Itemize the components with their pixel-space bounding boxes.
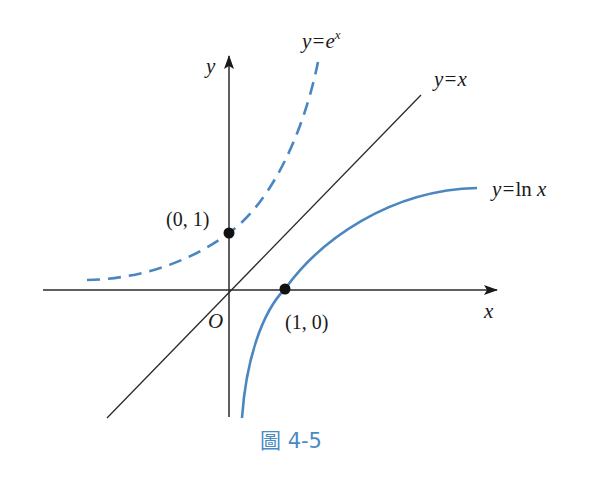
point-0-1-label: (0, 1) — [166, 208, 209, 231]
exp-label: y=ex — [300, 27, 341, 53]
point-0-1 — [224, 228, 235, 239]
exp-label-sup: x — [334, 27, 341, 42]
point-1-0-label: (1, 0) — [285, 311, 328, 334]
y-axis-label: y — [204, 54, 216, 78]
identity-label: y=x — [432, 67, 467, 91]
identity-line — [107, 95, 421, 418]
exp-label-base: y=e — [300, 29, 335, 53]
log-label-prefix: y= — [490, 177, 516, 201]
log-curve — [242, 188, 477, 418]
log-label-var: x — [532, 177, 547, 201]
log-label-ln: ln — [516, 177, 533, 201]
x-axis-label: x — [483, 299, 494, 323]
origin-label: O — [208, 309, 223, 333]
point-1-0 — [280, 284, 291, 295]
figure-caption: 圖 4-5 — [260, 429, 322, 453]
exp-curve — [87, 62, 318, 280]
log-label: y=ln x — [490, 177, 547, 201]
function-graph: y x O (0, 1) (1, 0) y=ex y=x y=ln x 圖 4-… — [0, 0, 590, 484]
